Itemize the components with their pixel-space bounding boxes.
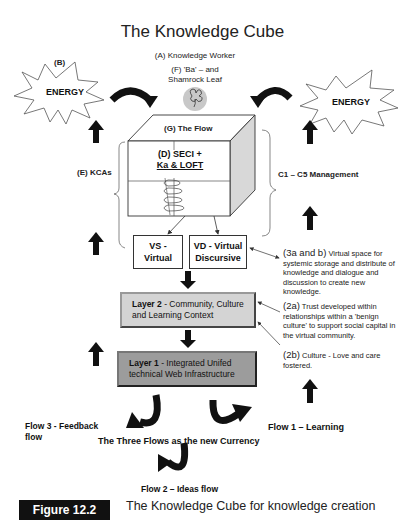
- seci-label-line2: Ka & LOFT: [140, 160, 220, 171]
- vd-line1: VD - Virtual: [194, 240, 242, 252]
- vs-line2: Virtual: [144, 252, 172, 264]
- vs-line1: VS -: [144, 240, 172, 252]
- ba-label-line1: (F) 'Ba' – and: [140, 65, 250, 75]
- flow-2-arrow: [158, 443, 185, 472]
- shamrock-icon: [183, 87, 207, 111]
- annotation-3ab-head: (3a and b): [283, 247, 326, 258]
- seci-label-line1: (D) SECI +: [140, 149, 220, 160]
- flow-g-label: (G) The Flow: [164, 124, 212, 134]
- vs-virtual-box: VS -Virtual: [133, 235, 183, 269]
- kcas-brace: [114, 142, 125, 248]
- layer-1-name: Layer 1: [129, 358, 159, 368]
- annotation-2a-head: (2a): [283, 300, 300, 311]
- annotation-2a-body: Trust developed within relationships wit…: [283, 302, 395, 340]
- kcas-label: (E) KCAs: [77, 168, 112, 178]
- flow-3-label: Flow 3 - Feedback flow: [25, 421, 98, 443]
- b-label: (B): [54, 58, 65, 68]
- annotation-3ab: (3a and b) Virtual space for systemic st…: [283, 248, 403, 297]
- flow-1-arrow: [213, 400, 252, 422]
- management-label: C1 – C5 Management: [278, 170, 358, 180]
- annotation-2a: (2a) Trust developed within relationship…: [283, 301, 403, 340]
- flow-3-arrow: [126, 395, 157, 428]
- annotation-2b: (2b) Culture - Love and care fostered.: [283, 350, 403, 370]
- figure-caption: The Knowledge Cube for knowledge creatio…: [126, 499, 375, 513]
- figure-badge: Figure 12.2: [19, 500, 110, 520]
- energy-right-label: ENERGY: [332, 97, 370, 107]
- ba-label-line2: Shamrock Leaf: [140, 75, 250, 85]
- energy-left-label: ENERGY: [46, 87, 84, 97]
- up-arrows-left: [88, 120, 104, 366]
- curved-arrow-left-top: [112, 91, 158, 108]
- layer-1-box: Layer 1 - Integrated Unifed technical We…: [117, 351, 257, 387]
- annotation-2b-head: (2b): [283, 349, 300, 360]
- curved-arrow-right-top: [250, 90, 290, 108]
- flow-3-line2: flow: [25, 432, 98, 443]
- vd-virtual-discursive-box: VD - VirtualDiscursive: [189, 235, 247, 269]
- layer-2-box: Layer 2 - Community, Culture and Learnin…: [120, 292, 256, 328]
- knowledge-worker-label: (A) Knowledge Worker: [130, 51, 260, 61]
- layer-2-name: Layer 2: [132, 299, 162, 309]
- diagram-title: The Knowledge Cube: [0, 22, 405, 42]
- three-flows-label: The Three Flows as the new Currency: [98, 436, 260, 446]
- flow-3-line1: Flow 3 - Feedback: [25, 421, 98, 432]
- flow-2-label: Flow 2 – Ideas flow: [141, 484, 218, 494]
- vd-line2: Discursive: [194, 252, 242, 264]
- flow-1-label: Flow 1 – Learning: [268, 422, 344, 432]
- management-brace: [262, 130, 276, 236]
